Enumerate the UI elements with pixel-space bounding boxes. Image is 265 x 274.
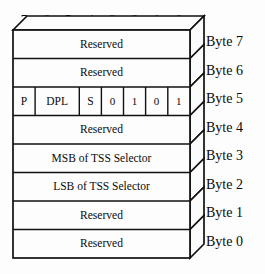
byte-label-column: Byte 7 Byte 6 Byte 5 Byte 4 Byte 3 Byte … [206, 16, 265, 266]
bit-number-7: 7 [13, 10, 35, 27]
bit-number-6: 6 [35, 10, 57, 27]
byte-label-2: Byte 2 [206, 175, 265, 195]
bit-number-4: 4 [79, 10, 101, 27]
byte-label-7: Byte 7 [206, 32, 265, 52]
bit-number-0: 0 [168, 10, 190, 27]
bit-number-1: 1 [146, 10, 168, 27]
bitfield-label-s: S [87, 95, 93, 108]
bitfield-label-bit0: 1 [176, 95, 182, 108]
bitfield-cell-bit3: 0 [101, 87, 123, 116]
byte-label-0: Byte 0 [206, 232, 265, 252]
bit-number-2: 2 [124, 10, 146, 27]
box-side-face-byte2 [190, 159, 204, 202]
box-side-face-byte6 [190, 45, 204, 88]
byte-label-6: Byte 6 [206, 61, 265, 81]
bit-number-5: 5 [57, 10, 79, 27]
byte-row-3: MSB of TSS Selector [13, 144, 190, 173]
bitfield-label-bit1: 0 [154, 95, 160, 108]
bitfield-cell-p: P [13, 87, 35, 116]
box-side-face-byte4 [190, 102, 204, 145]
bitfield-cell-bit2: 1 [123, 87, 145, 116]
box-side-face-byte5 [190, 73, 204, 116]
box-side-face-byte3 [190, 130, 204, 173]
byte-label-1: Byte 1 [206, 203, 265, 223]
byte-row-0-label: Reserved [80, 237, 123, 250]
byte-label-4: Byte 4 [206, 118, 265, 138]
byte-row-7: Reserved [13, 30, 190, 59]
bitfield-label-p: P [21, 95, 27, 108]
bitfield-label-bit2: 1 [132, 95, 138, 108]
bitfield-cell-bit1: 0 [146, 87, 168, 116]
byte-row-2-label: LSB of TSS Selector [53, 180, 150, 193]
bitfield-label-bit3: 0 [110, 95, 116, 108]
box-side-face-byte0 [190, 216, 204, 259]
byte-row-6-label: Reserved [80, 66, 123, 79]
byte-row-0: Reserved [13, 230, 190, 259]
byte-row-3-label: MSB of TSS Selector [52, 152, 152, 165]
byte-row-1-label: Reserved [80, 209, 123, 222]
byte-label-3: Byte 3 [206, 146, 265, 166]
byte-label-5: Byte 5 [206, 89, 265, 109]
bitfield-cell-bit0: 1 [168, 87, 190, 116]
byte-row-7-label: Reserved [80, 38, 123, 51]
byte-row-5: P DPL S 0 1 0 1 [13, 87, 190, 116]
box-side-face-byte7 [190, 16, 204, 59]
byte-row-6: Reserved [13, 59, 190, 88]
byte-rows-layer: Reserved Reserved P DPL S 0 1 0 [13, 30, 190, 258]
bitfield-cell-s: S [79, 87, 101, 116]
bitfield-cell-dpl: DPL [35, 87, 79, 116]
bitfield-label-dpl: DPL [46, 95, 68, 108]
box-side-face-byte1 [190, 187, 204, 230]
bit-number-ruler: 7 6 5 4 3 2 1 0 [13, 10, 190, 27]
byte-row-1: Reserved [13, 201, 190, 230]
byte-row-4-label: Reserved [80, 123, 123, 136]
bit-number-3: 3 [102, 10, 124, 27]
byte-row-4: Reserved [13, 116, 190, 145]
task-gate-descriptor-diagram: 7 6 5 4 3 2 1 0 [0, 0, 265, 274]
byte-row-2: LSB of TSS Selector [13, 173, 190, 202]
